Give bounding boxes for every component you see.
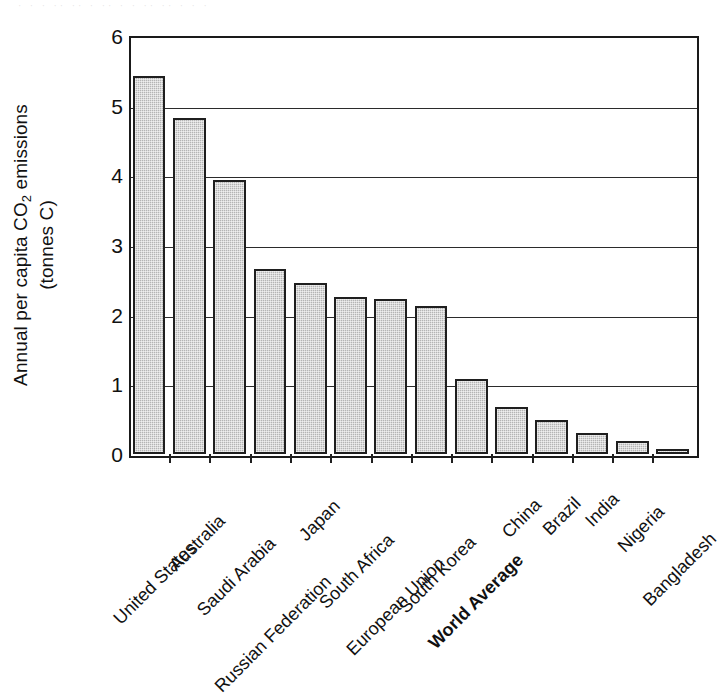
x-tick-label-group: United StatesAustraliaSaudi ArabiaRussia… bbox=[0, 462, 724, 622]
x-tick-label-nigeria: Nigeria bbox=[615, 502, 668, 555]
y-axis-label-text-post: emissions bbox=[10, 104, 31, 195]
x-tick-label-bangladesh: Bangladesh bbox=[639, 529, 719, 609]
y-axis-label-line-2: (tonnes C) bbox=[36, 200, 58, 290]
bar-australia[interactable] bbox=[173, 118, 206, 454]
x-tick-label-china: China bbox=[498, 495, 544, 541]
x-tick-label-south-africa: South Africa bbox=[316, 531, 397, 612]
y-tick-label-1: 1 bbox=[95, 374, 123, 395]
bar-russian-federation[interactable] bbox=[254, 269, 287, 454]
bar-european-union[interactable] bbox=[374, 299, 407, 454]
bar-saudi-arabia[interactable] bbox=[213, 180, 246, 454]
bar-world-average[interactable] bbox=[455, 379, 488, 454]
x-tick-label-japan: Japan bbox=[296, 497, 343, 544]
x-tick-label-india: India bbox=[582, 490, 622, 530]
x-tick-label-brazil: Brazil bbox=[539, 494, 584, 539]
y-tick-label-6: 6 bbox=[95, 26, 123, 47]
y-tick-label-4: 4 bbox=[95, 165, 123, 186]
bar-india[interactable] bbox=[576, 433, 609, 454]
bar-japan[interactable] bbox=[294, 283, 327, 454]
bar-group bbox=[129, 36, 695, 454]
bar-united-states[interactable] bbox=[133, 76, 166, 454]
y-axis-label-line-1: Annual per capita CO2 emissions bbox=[10, 104, 34, 386]
y-tick-label-group: 6543210 bbox=[93, 36, 123, 454]
bar-nigeria[interactable] bbox=[616, 441, 649, 454]
bar-south-africa[interactable] bbox=[334, 297, 367, 454]
y-axis-label-text-pre: Annual per capita CO bbox=[10, 202, 31, 386]
y-tick-label-5: 5 bbox=[95, 95, 123, 116]
y-axis-label: Annual per capita CO2 emissions (tonnes … bbox=[6, 36, 62, 454]
x-tick-label-australia: Australia bbox=[166, 512, 228, 574]
y-axis-label-subscript: 2 bbox=[19, 195, 34, 202]
bar-south-korea[interactable] bbox=[415, 306, 448, 454]
bar-china[interactable] bbox=[495, 407, 528, 454]
y-tick-label-2: 2 bbox=[95, 304, 123, 325]
y-tick-label-3: 3 bbox=[95, 235, 123, 256]
bar-brazil[interactable] bbox=[535, 420, 568, 454]
